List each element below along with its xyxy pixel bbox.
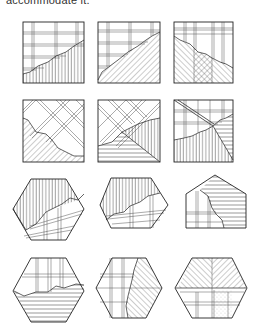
tile-square-4: [23, 100, 84, 162]
tile-house-pentagon: [186, 175, 246, 228]
tile-square-6: [174, 100, 233, 162]
tile-hexagon-4: [96, 258, 162, 318]
tile-hexagon-2: [100, 178, 168, 228]
tile-hexagon-1: [13, 179, 84, 240]
tile-hexagon-5: [175, 258, 247, 318]
tile-square-2: [98, 22, 160, 83]
tile-square-1: [23, 22, 84, 83]
tile-square-3: [174, 22, 233, 83]
tile-pattern-diagram: [0, 0, 261, 335]
tile-hexagon-3: [13, 258, 84, 322]
tile-square-5: [98, 100, 160, 162]
